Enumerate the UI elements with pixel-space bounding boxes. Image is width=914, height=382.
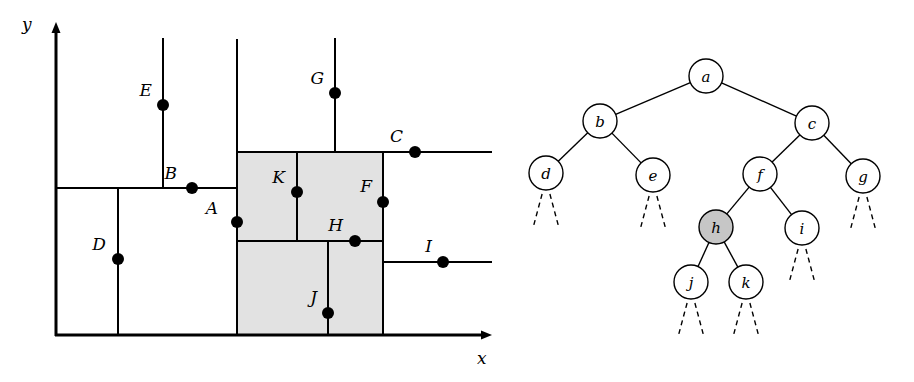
y-axis-arrowhead xyxy=(52,22,61,33)
tree-stub-j-left xyxy=(678,303,687,337)
point-label-G: G xyxy=(310,68,324,88)
tree-node-i[interactable]: i xyxy=(785,211,819,245)
tree-node-h[interactable]: h xyxy=(699,210,733,244)
tree-edge-a-b xyxy=(616,83,691,115)
point-C[interactable]: C xyxy=(390,126,421,158)
point-label-D: D xyxy=(91,234,106,254)
tree-stub-g-left xyxy=(850,197,859,231)
point-label-K: K xyxy=(271,167,286,187)
tree-node-j[interactable]: j xyxy=(674,265,708,299)
tree-stub-i-left xyxy=(789,249,798,283)
point-marker-J[interactable] xyxy=(322,307,334,319)
tree-edge-c-f xyxy=(772,135,800,162)
tree-node-label-k: k xyxy=(741,274,750,292)
tree-nodes-group: abcdefghijk xyxy=(529,59,880,299)
point-marker-B[interactable] xyxy=(186,182,198,194)
point-label-F: F xyxy=(359,176,373,196)
tree-node-label-e: e xyxy=(649,167,658,185)
point-label-C: C xyxy=(390,126,403,146)
point-label-A: A xyxy=(204,198,218,218)
point-marker-C[interactable] xyxy=(409,146,421,158)
tree-stub-k-left xyxy=(733,303,742,337)
tree-node-label-c: c xyxy=(808,115,817,133)
tree-stub-i-right xyxy=(806,249,815,283)
point-B[interactable]: B xyxy=(164,163,199,194)
tree-stub-e-left xyxy=(640,196,649,230)
tree-node-e[interactable]: e xyxy=(636,158,670,192)
tree-node-label-g: g xyxy=(858,168,868,186)
figure-root: x y ABCDEFGHIJK abcdefghijk xyxy=(0,0,914,382)
point-marker-E[interactable] xyxy=(157,99,169,111)
tree-node-c[interactable]: c xyxy=(795,106,829,140)
point-label-E: E xyxy=(139,80,153,100)
point-marker-G[interactable] xyxy=(329,87,341,99)
tree-edge-b-e xyxy=(612,133,641,163)
tree-node-label-a: a xyxy=(702,68,711,86)
tree-edge-c-g xyxy=(824,135,851,164)
tree-stub-k-right xyxy=(750,303,759,337)
point-marker-A[interactable] xyxy=(231,216,243,228)
tree-stub-d-left xyxy=(533,194,542,228)
figure-canvas: x y ABCDEFGHIJK abcdefghijk xyxy=(0,0,914,382)
tree-edge-b-d xyxy=(558,133,588,161)
point-E[interactable]: E xyxy=(139,80,169,111)
tree-edge-a-c xyxy=(722,83,797,116)
tree-edge-h-k xyxy=(724,242,738,267)
point-label-I: I xyxy=(424,236,432,256)
tree-node-label-d: d xyxy=(541,165,551,183)
x-axis-label: x xyxy=(477,348,487,368)
tree-stub-g-right xyxy=(867,197,876,231)
point-marker-D[interactable] xyxy=(112,253,124,265)
point-D[interactable]: D xyxy=(91,234,124,265)
point-G[interactable]: G xyxy=(310,68,341,99)
tree-edge-f-h xyxy=(727,187,749,214)
point-marker-I[interactable] xyxy=(437,256,449,268)
tree-edge-h-j xyxy=(698,242,709,266)
tree-node-label-i: i xyxy=(800,220,805,238)
tree-stub-j-right xyxy=(695,303,704,337)
point-I[interactable]: I xyxy=(424,236,449,268)
y-axis-label: y xyxy=(21,14,32,34)
tree-node-a[interactable]: a xyxy=(689,59,723,93)
tree-edge-f-i xyxy=(770,187,791,214)
tree-node-label-h: h xyxy=(711,219,721,237)
point-marker-H[interactable] xyxy=(349,235,361,247)
tree-node-label-b: b xyxy=(595,113,605,131)
region-upper xyxy=(237,152,383,241)
tree-stub-e-right xyxy=(657,196,666,230)
tree-node-f[interactable]: f xyxy=(743,157,777,191)
x-axis-arrowhead xyxy=(481,331,492,340)
tree-node-k[interactable]: k xyxy=(729,265,763,299)
point-label-B: B xyxy=(164,163,178,183)
tree-node-b[interactable]: b xyxy=(583,104,617,138)
tree-node-g[interactable]: g xyxy=(846,159,880,193)
tree-node-d[interactable]: d xyxy=(529,156,563,190)
tree-stub-d-right xyxy=(550,194,559,228)
point-label-H: H xyxy=(327,215,344,235)
point-marker-K[interactable] xyxy=(291,186,303,198)
point-marker-F[interactable] xyxy=(377,196,389,208)
